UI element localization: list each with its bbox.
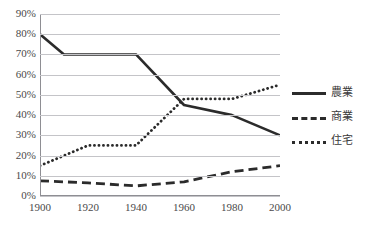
y-axis-tick-label: 50% <box>2 89 36 100</box>
y-axis-tick-label: 70% <box>2 48 36 59</box>
y-axis-tick-label: 80% <box>2 28 36 39</box>
legend-item[interactable]: 住宅 <box>292 134 366 148</box>
gridline <box>40 14 280 15</box>
x-axis-tick-label: 1920 <box>68 200 108 214</box>
y-axis-tick-label: 30% <box>2 129 36 140</box>
line-chart-figure: 0%10%20%30%40%50%60%70%80%90% 1900192019… <box>0 0 366 226</box>
legend-item[interactable]: 農業 <box>292 86 366 100</box>
x-axis-tick-label: 2000 <box>260 200 300 214</box>
x-axis-labels: 190019201940196019802000 <box>40 200 280 218</box>
y-axis-tick-label: 40% <box>2 109 36 120</box>
legend-label: 商業 <box>331 110 353 124</box>
gridline <box>40 34 280 35</box>
gridline <box>40 75 280 76</box>
gridline <box>40 135 280 136</box>
y-axis-tick-label: 90% <box>2 8 36 19</box>
x-axis-tick-label: 1900 <box>20 200 60 214</box>
legend-label: 農業 <box>331 86 353 100</box>
y-axis-tick-label: 60% <box>2 69 36 80</box>
x-axis-tick-label: 1960 <box>164 200 204 214</box>
y-axis-line <box>40 14 41 196</box>
gridline <box>40 54 280 55</box>
y-axis-labels: 0%10%20%30%40%50%60%70%80%90% <box>0 14 36 196</box>
y-axis-tick-label: 20% <box>2 150 36 161</box>
plot-area <box>40 14 280 196</box>
gridline <box>40 176 280 177</box>
y-axis-tick-label: 10% <box>2 170 36 181</box>
series-line <box>40 85 280 166</box>
x-axis-tick-label: 1940 <box>116 200 156 214</box>
legend-swatch-dashed-icon <box>292 117 326 120</box>
legend-item[interactable]: 商業 <box>292 110 366 124</box>
legend-swatch-solid-icon <box>292 92 326 95</box>
gridline <box>40 115 280 116</box>
gridline <box>40 196 280 197</box>
chart-title <box>96 0 286 3</box>
series-lines <box>40 14 280 196</box>
gridline <box>40 156 280 157</box>
series-line <box>40 34 280 135</box>
x-axis-tick-label: 1980 <box>212 200 252 214</box>
chart-legend: 農業商業住宅 <box>292 86 366 148</box>
legend-swatch-dotted-icon <box>292 141 326 144</box>
gridline <box>40 95 280 96</box>
legend-label: 住宅 <box>331 134 353 148</box>
